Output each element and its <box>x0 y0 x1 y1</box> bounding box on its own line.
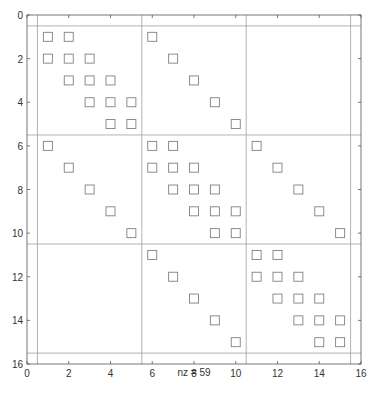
y-tick-label: 12 <box>12 272 24 283</box>
nonzero-marker <box>169 272 178 281</box>
nonzero-marker <box>273 294 282 303</box>
nonzero-marker <box>148 141 157 150</box>
nonzero-marker <box>294 272 303 281</box>
y-tick-label: 16 <box>12 359 24 370</box>
nonzero-marker <box>252 250 261 259</box>
nonzero-marker <box>315 294 324 303</box>
nonzero-marker <box>127 120 136 129</box>
nonzero-marker <box>315 207 324 216</box>
nonzero-marker <box>315 338 324 347</box>
y-tick-labels: 0246810121416 <box>12 10 24 370</box>
x-tick-label: 2 <box>66 368 72 379</box>
axes <box>27 15 361 364</box>
nonzero-marker <box>64 54 73 63</box>
nonzero-marker <box>315 316 324 325</box>
x-tick-label: 12 <box>272 368 284 379</box>
nonzero-marker <box>210 185 219 194</box>
nonzero-marker <box>169 185 178 194</box>
y-tick-label: 14 <box>12 315 24 326</box>
nonzero-marker <box>148 163 157 172</box>
nonzero-marker <box>64 76 73 85</box>
nonzero-marker <box>85 185 94 194</box>
nonzero-marker <box>294 294 303 303</box>
nonzero-marker <box>190 76 199 85</box>
nonzero-marker <box>273 163 282 172</box>
nonzero-marker <box>210 229 219 238</box>
y-tick-label: 10 <box>12 228 24 239</box>
axes-frame <box>27 15 361 364</box>
nonzero-marker <box>190 185 199 194</box>
nonzero-marker <box>43 141 52 150</box>
y-tick-label: 2 <box>17 54 23 65</box>
nonzero-marker <box>148 250 157 259</box>
nonzero-marker <box>210 98 219 107</box>
nonzero-marker <box>85 76 94 85</box>
nonzero-marker <box>106 76 115 85</box>
nonzero-marker <box>190 163 199 172</box>
nonzero-marker <box>252 141 261 150</box>
nonzero-marker <box>231 338 240 347</box>
nonzero-marker <box>169 141 178 150</box>
nonzero-marker <box>336 316 345 325</box>
nonzero-marker <box>106 98 115 107</box>
x-tick-label: 10 <box>230 368 242 379</box>
nonzero-marker <box>294 316 303 325</box>
nonzero-marker <box>336 338 345 347</box>
y-tick-label: 8 <box>17 185 23 196</box>
x-axis-label: nz = 59 <box>177 367 211 378</box>
nonzero-markers <box>43 32 344 346</box>
nonzero-marker <box>169 54 178 63</box>
spy-plot: 0246810121416 0246810121416 nz = 59 <box>0 0 376 393</box>
x-tick-label: 16 <box>355 368 367 379</box>
nonzero-marker <box>106 207 115 216</box>
nonzero-marker <box>106 120 115 129</box>
y-tick-label: 6 <box>17 141 23 152</box>
nonzero-marker <box>64 163 73 172</box>
nonzero-marker <box>231 207 240 216</box>
nonzero-marker <box>273 272 282 281</box>
y-tick-label: 4 <box>17 97 23 108</box>
nonzero-marker <box>148 32 157 41</box>
x-tick-label: 4 <box>108 368 114 379</box>
x-tick-label: 6 <box>149 368 155 379</box>
nonzero-marker <box>273 250 282 259</box>
nonzero-marker <box>169 163 178 172</box>
nonzero-marker <box>190 294 199 303</box>
y-tick-label: 0 <box>17 10 23 21</box>
nonzero-marker <box>85 54 94 63</box>
nonzero-marker <box>252 272 261 281</box>
x-tick-label: 14 <box>314 368 326 379</box>
nonzero-marker <box>210 207 219 216</box>
nonzero-marker <box>210 316 219 325</box>
nonzero-marker <box>43 54 52 63</box>
nonzero-marker <box>43 32 52 41</box>
nonzero-marker <box>294 185 303 194</box>
nonzero-marker <box>64 32 73 41</box>
nonzero-marker <box>336 229 345 238</box>
block-separators <box>27 15 361 364</box>
nonzero-marker <box>190 207 199 216</box>
nonzero-marker <box>85 98 94 107</box>
nonzero-marker <box>231 229 240 238</box>
nonzero-marker <box>231 120 240 129</box>
x-tick-label: 0 <box>24 368 30 379</box>
nonzero-marker <box>127 229 136 238</box>
nonzero-marker <box>127 98 136 107</box>
